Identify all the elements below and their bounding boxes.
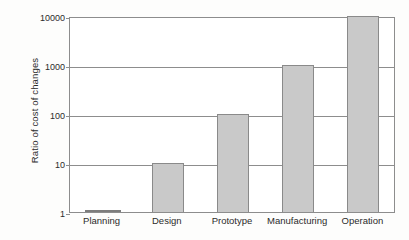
y-tick-label: 1 — [26, 209, 70, 219]
y-tick-mark — [66, 214, 70, 215]
y-tick-label: 1000 — [26, 62, 70, 72]
plot-area: 110100100010000 — [69, 17, 395, 213]
x-tick-label: Manufacturing — [267, 215, 327, 226]
x-tick-label: Prototype — [212, 215, 253, 226]
x-tick-label: Design — [152, 215, 182, 226]
bar-manufacturing — [282, 65, 314, 212]
bar-slot — [135, 18, 200, 212]
x-tick-label: Operation — [342, 215, 384, 226]
bar-slot — [200, 18, 265, 212]
bar-planning — [85, 210, 121, 212]
y-tick-label: 10 — [26, 160, 70, 170]
bar-series — [70, 18, 394, 212]
bar-slot — [266, 18, 331, 212]
bar-operation — [347, 16, 379, 212]
bar-prototype — [217, 114, 249, 212]
bar-slot — [70, 18, 135, 212]
x-tick-label: Planning — [83, 215, 120, 226]
y-tick-label: 10000 — [26, 13, 70, 23]
bar-slot — [331, 18, 396, 212]
chart-figure: Ratio of cost of changes 110100100010000… — [0, 0, 409, 240]
y-tick-label: 100 — [26, 111, 70, 121]
bar-design — [152, 163, 184, 212]
